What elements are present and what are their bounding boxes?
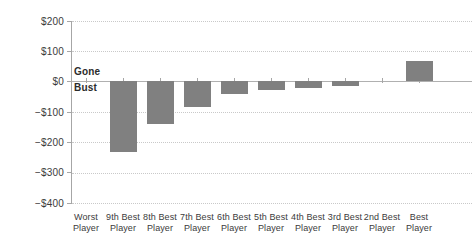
y-tick-n100 <box>67 112 72 113</box>
y-axis-label-0: $0 <box>52 76 64 87</box>
x-axis-label-best-player: Best Player <box>392 212 446 234</box>
y-tick-0 <box>67 81 72 82</box>
y-tick-200 <box>67 21 72 22</box>
gridline-n400 <box>72 203 472 204</box>
bar-4th-best-player <box>295 81 322 88</box>
bar-9th-best-player <box>110 81 137 152</box>
bar-3rd-best-player <box>332 81 359 86</box>
x-axis-label-line1: Best <box>392 212 446 223</box>
y-tick-n200 <box>67 142 72 143</box>
gridline-n300 <box>72 173 472 174</box>
y-axis-label-n100: −$100 <box>35 107 64 118</box>
bar-chart: $200 $100 $0 −$100 −$200 −$300 −$400 Wor… <box>0 0 476 249</box>
gridline-100 <box>72 51 472 52</box>
y-tick-n300 <box>67 172 72 173</box>
annotation-gone: Gone <box>74 66 100 77</box>
x-axis-label-line2: Player <box>392 223 446 234</box>
y-tick-100 <box>67 51 72 52</box>
y-axis-label-100: $100 <box>41 46 64 57</box>
y-axis-label-n400: −$400 <box>35 198 64 209</box>
bar-5th-best-player <box>258 81 285 90</box>
bar-best-player <box>406 61 433 81</box>
y-axis-label-n200: −$200 <box>35 137 64 148</box>
gridline-200 <box>72 21 472 22</box>
y-axis-label-n300: −$300 <box>35 167 64 178</box>
bar-8th-best-player <box>147 81 174 124</box>
bar-7th-best-player <box>184 81 211 107</box>
y-tick-n400 <box>67 203 72 204</box>
x-tick-8 <box>382 78 383 83</box>
annotation-bust: Bust <box>74 82 97 93</box>
y-axis-label-200: $200 <box>41 16 64 27</box>
bar-6th-best-player <box>221 81 248 94</box>
